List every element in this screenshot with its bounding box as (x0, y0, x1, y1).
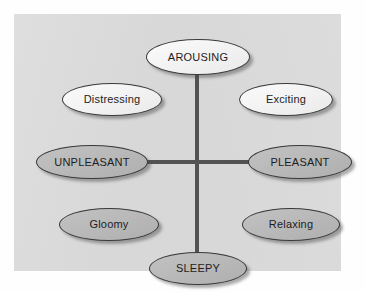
node-distressing[interactable]: Distressing (62, 83, 162, 116)
node-pleasant[interactable]: PLEASANT (248, 145, 352, 179)
diagram-panel: AROUSING Distressing Exciting UNPLEASANT… (14, 14, 341, 271)
node-gloomy[interactable]: Gloomy (59, 208, 159, 241)
node-sleepy[interactable]: SLEEPY (149, 252, 247, 285)
node-exciting[interactable]: Exciting (239, 83, 333, 116)
arousal-axis-line (195, 60, 199, 268)
node-distressing-label: Distressing (84, 94, 141, 105)
node-exciting-label: Exciting (266, 94, 306, 105)
node-gloomy-label: Gloomy (89, 219, 128, 230)
node-pleasant-label: PLEASANT (270, 157, 329, 168)
affect-circumplex-figure: AROUSING Distressing Exciting UNPLEASANT… (0, 0, 365, 292)
node-relaxing-label: Relaxing (269, 219, 313, 230)
node-relaxing[interactable]: Relaxing (242, 208, 340, 241)
node-arousing[interactable]: AROUSING (146, 39, 250, 75)
node-sleepy-label: SLEEPY (176, 263, 220, 274)
node-unpleasant-label: UNPLEASANT (54, 157, 129, 168)
node-unpleasant[interactable]: UNPLEASANT (36, 145, 148, 179)
node-arousing-label: AROUSING (168, 52, 228, 63)
